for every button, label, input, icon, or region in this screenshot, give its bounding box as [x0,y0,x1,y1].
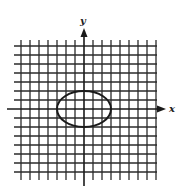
grid-lines [14,40,157,180]
x-axis-label: x [168,103,176,114]
y-axis-label: y [79,15,87,26]
y-axis-arrow-icon [81,28,88,37]
coordinate-graph: x y [0,0,191,189]
x-axis-arrow-icon [157,106,166,113]
